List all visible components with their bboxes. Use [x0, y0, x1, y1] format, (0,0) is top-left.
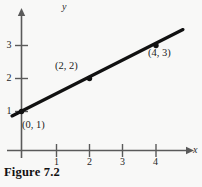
x-tick-label-4: 4 — [151, 157, 160, 167]
figure-container: y x 1 2 3 1 2 3 4 (0, 1) (2, 2) (4, 3) F… — [0, 0, 202, 187]
y-axis-arrowhead-icon — [18, 8, 25, 16]
y-tick-label-1: 1 — [5, 106, 13, 116]
plot-area: y x 1 2 3 1 2 3 4 (0, 1) (2, 2) (4, 3) — [0, 0, 202, 163]
x-tick-label-3: 3 — [118, 157, 127, 167]
y-axis-label: y — [62, 2, 66, 12]
point-annotation-2-2: (2, 2) — [55, 61, 78, 72]
y-axis — [18, 8, 25, 158]
x-axis-label: x — [193, 145, 197, 155]
point-annotation-0-1: (0, 1) — [22, 120, 45, 131]
y-tick-label-2: 2 — [5, 73, 13, 83]
x-tick-label-2: 2 — [85, 157, 94, 167]
data-point-0-1 — [19, 109, 24, 114]
x-axis — [7, 147, 194, 154]
coordinate-plot-svg — [0, 0, 202, 163]
figure-caption: Figure 7.2 — [4, 166, 60, 180]
data-point-2-2 — [87, 76, 92, 81]
y-tick-label-3: 3 — [5, 40, 13, 50]
plotted-line — [12, 30, 183, 117]
point-annotation-4-3: (4, 3) — [148, 48, 171, 59]
